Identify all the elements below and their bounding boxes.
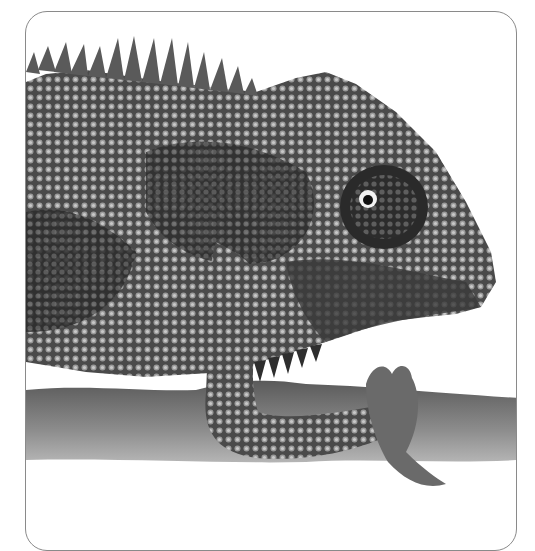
eye	[340, 165, 428, 249]
illustration-frame	[25, 11, 517, 551]
chameleon-body	[26, 70, 496, 377]
chameleon-illustration	[26, 12, 517, 551]
